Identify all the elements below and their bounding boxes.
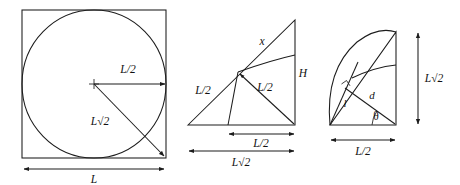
half-diagonal-label: L√2 <box>90 115 110 127</box>
arc-radius-left <box>228 72 238 125</box>
chord-label: l <box>343 97 346 109</box>
panel-middle: x L/2 L/2 H L/2 L√2 <box>188 20 308 168</box>
arc-outer-right <box>329 30 396 125</box>
distance-label: d <box>369 89 375 101</box>
base-label-right: L/2 <box>354 145 371 157</box>
vertical-dimension-label: L√2 <box>424 72 444 84</box>
hypotenuse-segment-label: x <box>258 35 265 47</box>
radius-label: L/2 <box>119 63 136 75</box>
geometry-figure: L/2 L√2 L x L/2 L/2 H L/2 <box>0 0 460 185</box>
triangle-outline-right <box>330 32 396 125</box>
right-angle-marker <box>342 81 351 86</box>
angle-label: θ <box>373 110 379 122</box>
diagram-canvas: L/2 L√2 L x L/2 L/2 H L/2 <box>0 0 460 185</box>
base-outer-label: L√2 <box>231 156 251 168</box>
base-inner-label: L/2 <box>252 137 269 149</box>
arrow-segment-label: L/2 <box>256 81 273 93</box>
triangle-outline <box>188 20 295 125</box>
arc-radius-upper <box>238 55 295 72</box>
panel-left: L/2 L√2 L <box>22 10 166 185</box>
side-label: L <box>90 173 97 185</box>
height-label: H <box>298 67 308 79</box>
panel-right: l d θ L√2 L/2 <box>329 30 443 156</box>
left-leg-segment-label: L/2 <box>194 84 211 96</box>
arc-inner-right <box>352 65 396 78</box>
chord-segment <box>330 62 358 125</box>
